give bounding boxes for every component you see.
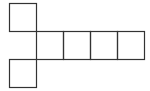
square-bottom xyxy=(10,60,37,88)
squares-group xyxy=(10,4,145,88)
square-top xyxy=(10,4,37,32)
square-row-4 xyxy=(118,32,145,60)
square-row-2 xyxy=(64,32,91,60)
square-row-1 xyxy=(37,32,64,60)
net-diagram xyxy=(0,0,150,91)
square-row-3 xyxy=(91,32,118,60)
